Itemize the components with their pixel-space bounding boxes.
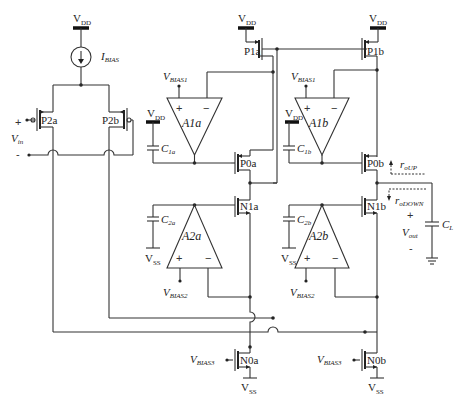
svg-text:+: + xyxy=(407,209,413,221)
svg-text:-: - xyxy=(409,242,413,254)
left-branch: VDD P1a + − A1a VBIAS1 VDD C1 xyxy=(109,12,367,396)
svg-text:C1a: C1a xyxy=(161,142,176,156)
svg-text:+: + xyxy=(15,116,21,128)
svg-text:−: − xyxy=(203,102,209,114)
vin-label: Vin xyxy=(11,132,24,146)
svg-text:A2b: A2b xyxy=(308,229,328,243)
svg-text:VSS: VSS xyxy=(145,252,161,267)
p1b-label: P1b xyxy=(367,45,385,57)
svg-text:-: - xyxy=(16,148,20,160)
svg-text:VSS: VSS xyxy=(368,381,384,396)
p0b-label: P0b xyxy=(367,157,385,169)
p2b-label: P2b xyxy=(102,114,120,126)
vdd-label-input: VDD xyxy=(73,12,91,27)
roup-label: roUP xyxy=(400,158,418,172)
svg-text:VDD: VDD xyxy=(238,12,256,27)
ibias-label: IBIAS xyxy=(100,50,120,64)
cl-label: CL xyxy=(442,218,453,232)
svg-text:VDD: VDD xyxy=(147,107,165,122)
n0b-label: N0b xyxy=(367,354,386,366)
svg-text:C2a: C2a xyxy=(161,213,176,227)
svg-text:VBIAS1: VBIAS1 xyxy=(291,70,316,84)
svg-text:+: + xyxy=(176,102,182,114)
svg-text:VBIAS3: VBIAS3 xyxy=(190,353,215,367)
svg-text:−: − xyxy=(331,102,337,114)
bus-p2a-to-n0b xyxy=(53,327,365,332)
n0a-label: N0a xyxy=(240,354,258,366)
svg-text:+: + xyxy=(304,252,310,264)
svg-text:C2b: C2b xyxy=(297,213,312,227)
svg-text:+: + xyxy=(176,252,182,264)
circuit-schematic: VDD IBIAS P2a P2b + Vi xyxy=(0,0,465,396)
svg-text:VSS: VSS xyxy=(281,252,297,267)
n1b-label: N1b xyxy=(367,200,386,212)
svg-text:VBIAS2: VBIAS2 xyxy=(163,286,188,300)
svg-text:VDD: VDD xyxy=(369,12,387,27)
output-load: CL roUP roDOWN + Vout - xyxy=(377,158,453,264)
svg-text:A1b: A1b xyxy=(308,116,328,130)
svg-text:VBIAS3: VBIAS3 xyxy=(317,353,342,367)
p1a-label: P1a xyxy=(244,45,261,57)
svg-text:VSS: VSS xyxy=(241,381,257,396)
svg-text:−: − xyxy=(205,252,211,264)
n1a-label: N1a xyxy=(240,200,258,212)
svg-text:C1b: C1b xyxy=(297,142,312,156)
input-stage: VDD IBIAS P2a P2b + Vi xyxy=(11,12,133,332)
right-branch: VDD P1b + − A1b VBIAS1 VDD C1b xyxy=(281,12,387,396)
svg-text:+: + xyxy=(304,102,310,114)
svg-text:A1a: A1a xyxy=(181,116,201,130)
svg-text:−: − xyxy=(332,252,338,264)
rodown-label: roDOWN xyxy=(395,194,424,208)
svg-text:VBIAS2: VBIAS2 xyxy=(290,286,315,300)
p0a-label: P0a xyxy=(240,157,257,169)
vout-label: Vout xyxy=(402,226,419,240)
svg-text:VBIAS1: VBIAS1 xyxy=(163,70,188,84)
svg-text:A2a: A2a xyxy=(181,229,201,243)
p2a-label: P2a xyxy=(41,114,58,126)
